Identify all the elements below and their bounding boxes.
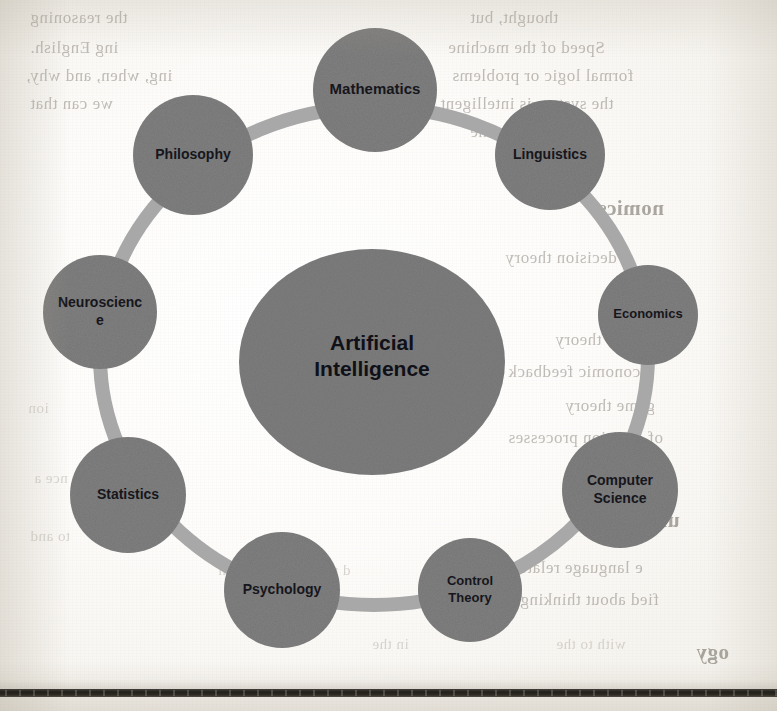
node-label: Economics [613,306,682,321]
node-label: Linguistics [513,146,587,162]
node-label-line: e [96,312,104,328]
node-statistics[interactable]: Statistics [70,437,186,553]
node-economics[interactable]: Economics [598,265,698,365]
node-label: Philosophy [155,146,231,162]
scan-edge-speckle [0,690,777,696]
node-mathematics[interactable]: Mathematics [313,28,437,152]
node-computer-science[interactable]: ComputerScience [562,432,678,548]
node-label-line: Science [594,490,647,506]
node-label-line: Psychology [243,581,322,597]
node-label: Statistics [97,486,159,502]
ai-disciplines-diagram: ArtificialIntelligence MathematicsLingui… [0,0,777,711]
node-label-line: Statistics [97,486,159,502]
node-label-line: Mathematics [330,80,421,97]
hub-label-line: Intelligence [314,357,430,380]
node-label-line: Control [447,573,493,588]
node-control-theory[interactable]: ControlTheory [418,538,522,642]
scanned-page: the reasoninging English.ing, when, and … [0,0,777,711]
node-label-line: Linguistics [513,146,587,162]
node-label-line: Philosophy [155,146,231,162]
node-philosophy[interactable]: Philosophy [133,95,253,215]
node-label: Psychology [243,581,322,597]
node-psychology[interactable]: Psychology [224,532,340,648]
node-label-line: Economics [613,306,682,321]
node-label-line: Computer [587,472,654,488]
node-label: Mathematics [330,80,421,97]
hub-node-artificial-intelligence[interactable]: ArtificialIntelligence [239,249,505,475]
node-neuroscience[interactable]: Neuroscience [43,255,157,369]
hub-label-line: Artificial [330,331,414,354]
node-label-line: Neuroscienc [58,294,142,310]
node-linguistics[interactable]: Linguistics [495,100,605,210]
node-label-line: Theory [448,590,492,605]
